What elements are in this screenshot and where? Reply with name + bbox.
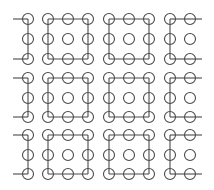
node-circle xyxy=(124,34,135,45)
node-circle xyxy=(63,150,74,161)
node-circle xyxy=(185,150,196,161)
node-circle xyxy=(185,93,196,104)
node-circle xyxy=(124,93,135,104)
node-circle xyxy=(63,93,74,104)
circle-grid-diagram xyxy=(0,0,214,190)
node-circle xyxy=(63,34,74,45)
node-circle xyxy=(124,150,135,161)
node-circle xyxy=(185,34,196,45)
